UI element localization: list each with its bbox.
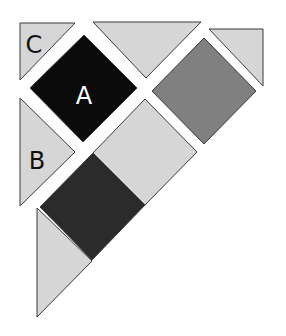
label-b: B bbox=[29, 147, 45, 175]
label-a: A bbox=[76, 82, 93, 110]
label-c: C bbox=[26, 31, 43, 59]
tangram-pieces bbox=[20, 22, 263, 317]
tangram-diagram: C A B bbox=[0, 0, 286, 336]
